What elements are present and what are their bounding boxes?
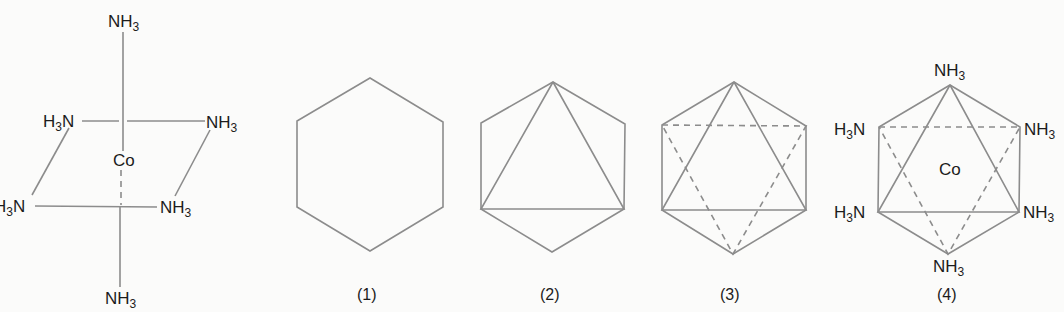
caption-3: (3) (720, 286, 740, 303)
ligand-lower-left: H3N (0, 197, 25, 219)
panel-perspective: NH3 H3N NH3 Co H3N NH3 NH3 (0, 12, 238, 311)
ligand-top: NH3 (108, 12, 140, 34)
ligand-lower-right: NH3 (160, 198, 192, 220)
panel-step-1: (1) (297, 78, 443, 303)
ligand-top: NH3 (934, 61, 966, 83)
ligand-bottom: NH3 (105, 289, 137, 311)
panel-step-3: (3) (662, 82, 806, 303)
bond-left-slant (32, 128, 69, 195)
panel-step-2: (2) (481, 82, 625, 303)
panel-step-4: NH3 H3N NH3 Co H3N NH3 NH3 (4) (834, 61, 1056, 303)
caption-2: (2) (540, 286, 560, 303)
bond-lower (35, 206, 157, 207)
ligand-upper-right: NH3 (1024, 120, 1056, 142)
ligand-lower-left: H3N (834, 203, 865, 225)
ligand-upper-right: NH3 (206, 113, 238, 135)
back-triangle (662, 125, 806, 254)
hexagon-outline (481, 82, 625, 252)
bond-right-slant (175, 130, 210, 196)
front-triangle (878, 85, 1019, 212)
central-atom: Co (113, 151, 135, 170)
ligand-upper-left: H3N (834, 120, 865, 142)
caption-4: (4) (937, 286, 957, 303)
ligand-bottom: NH3 (933, 257, 965, 279)
ligand-upper-left: H3N (43, 112, 74, 134)
back-triangle (879, 127, 1020, 254)
front-triangle (662, 82, 806, 210)
hexagon-outline (297, 78, 443, 251)
central-atom: Co (939, 160, 961, 179)
ligand-lower-right: NH3 (1023, 203, 1055, 225)
octahedral-construction-diagram: NH3 H3N NH3 Co H3N NH3 NH3 (1) (2) (3) (0, 0, 1064, 312)
front-triangle (481, 82, 624, 209)
hexagon-outline (662, 82, 806, 254)
caption-1: (1) (357, 286, 377, 303)
